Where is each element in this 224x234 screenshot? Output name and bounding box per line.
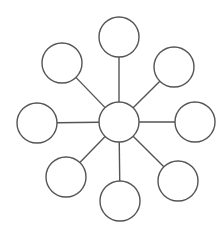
connector-line-spoke-bottom-right bbox=[133, 136, 164, 167]
spoke-bottom-left-node bbox=[46, 157, 86, 197]
connector-line-spoke-bottom-left bbox=[80, 136, 105, 162]
spoke-top-left-node bbox=[42, 43, 82, 83]
hub-node bbox=[99, 102, 139, 142]
connector-line-spoke-left bbox=[57, 122, 99, 123]
spoke-right-node bbox=[175, 102, 215, 142]
spoke-bottom-node bbox=[100, 181, 140, 221]
connector-line-spoke-top-right bbox=[133, 81, 160, 108]
spoke-left-node bbox=[17, 103, 57, 143]
spoke-bottom-right-node bbox=[158, 161, 198, 201]
spoke-top-right-node bbox=[154, 47, 194, 87]
spoke-top-node bbox=[99, 17, 139, 57]
hub-spoke-diagram bbox=[0, 0, 224, 234]
diagram-nodes bbox=[17, 17, 215, 221]
connector-line-spoke-top-left bbox=[76, 77, 105, 107]
